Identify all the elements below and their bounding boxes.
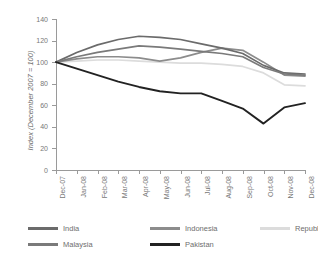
series-line-indonesia (56, 48, 305, 76)
x-tick-label: Dec-07 (59, 176, 66, 199)
y-tick-label: 80 (8, 80, 48, 87)
x-tick-label: Jan-08 (80, 176, 87, 197)
x-tick-label: Sep-08 (246, 176, 253, 199)
legend-item-pakistan[interactable]: Pakistan (150, 240, 260, 249)
x-tick-label: Jul-08 (204, 176, 211, 195)
y-tick-label: 40 (8, 123, 48, 130)
x-tick-label: Jun-08 (184, 176, 191, 197)
x-tick-label: May-08 (163, 176, 170, 199)
legend-item-india[interactable]: India (28, 224, 150, 233)
line-chart: Index (December 2007 = 100) 020406080100… (0, 0, 318, 262)
legend-swatch-icon (150, 243, 180, 246)
y-tick-label: 20 (8, 145, 48, 152)
legend-swatch-icon (150, 227, 180, 230)
legend-label: Indonesia (185, 224, 218, 233)
x-tick-label: Oct-08 (267, 176, 274, 197)
legend-label: Pakistan (185, 240, 214, 249)
legend-item-indonesia[interactable]: Indonesia (150, 224, 260, 233)
y-tick-label: 120 (8, 37, 48, 44)
x-tick-label: Aug-08 (225, 176, 232, 199)
legend-label: Malaysia (63, 240, 93, 249)
x-tick-label: Nov-08 (287, 176, 294, 199)
legend-swatch-icon (28, 227, 58, 230)
series-lines (56, 19, 306, 171)
legend-item-republic-of-korea[interactable]: Republic of Korea (260, 224, 318, 233)
legend-label: India (63, 224, 79, 233)
y-tick-label: 140 (8, 16, 48, 23)
y-axis-title: Index (December 2007 = 100) (26, 21, 35, 181)
y-tick-label: 100 (8, 59, 48, 66)
legend-swatch-icon (28, 243, 58, 246)
legend-label: Republic of Korea (295, 224, 318, 233)
x-tick-label: Apr-08 (142, 176, 149, 197)
y-tick-label: 60 (8, 102, 48, 109)
y-tick-label: 0 (8, 167, 48, 174)
legend-swatch-icon (260, 227, 290, 230)
series-line-pakistan (56, 62, 305, 123)
x-tick-label: Feb-08 (101, 176, 108, 198)
x-tick-label: Mar-08 (121, 176, 128, 198)
x-tick-label: Dec-08 (308, 176, 315, 199)
chart-legend: IndiaIndonesiaRepublic of KoreaMalaysiaP… (28, 220, 310, 252)
legend-item-malaysia[interactable]: Malaysia (28, 240, 150, 249)
